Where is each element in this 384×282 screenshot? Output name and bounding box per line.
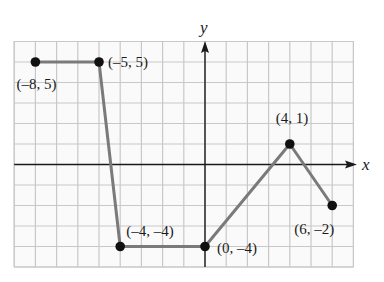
y-axis-label: y xyxy=(198,18,208,37)
point-label: (–8, 5) xyxy=(16,76,56,93)
data-point xyxy=(94,57,104,67)
point-label: (–4, –4) xyxy=(126,223,174,240)
data-point xyxy=(200,242,210,252)
point-label: (6, –2) xyxy=(294,221,334,238)
data-point xyxy=(31,57,41,67)
data-point xyxy=(115,242,125,252)
data-point xyxy=(327,201,337,211)
x-axis-label: x xyxy=(361,155,370,174)
point-label: (0, –4) xyxy=(217,240,257,257)
point-label: (4, 1) xyxy=(276,110,309,127)
point-label: (–5, 5) xyxy=(108,54,148,71)
graph: (–8, 5)(–5, 5)(–4, –4)(0, –4)(4, 1)(6, –… xyxy=(0,0,384,282)
data-point xyxy=(285,139,295,149)
